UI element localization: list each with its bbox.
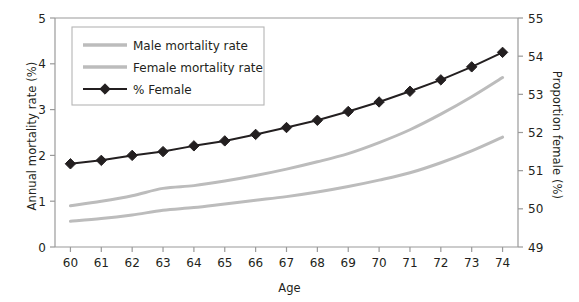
y-axis-right-tick-label: 55 [528, 12, 543, 26]
y-axis-left-tick-label: 2 [38, 149, 46, 163]
x-axis-tick-label: 61 [94, 256, 109, 270]
x-axis-tick-label: 73 [464, 256, 479, 270]
x-axis-tick-label: 72 [433, 256, 448, 270]
x-axis-tick-label: 70 [371, 256, 386, 270]
y-axis-right-title: Proportion female (%) [550, 40, 564, 230]
y-axis-right-tick-label: 50 [528, 202, 543, 216]
legend-label: % Female [133, 83, 192, 97]
x-axis-tick-label: 74 [495, 256, 510, 270]
chart-plot: 0123454950515253545560616263646566676869… [0, 0, 579, 302]
series-marker [497, 47, 507, 57]
series-line [70, 137, 502, 221]
series-marker [405, 86, 415, 96]
x-axis-tick-label: 66 [248, 256, 263, 270]
y-axis-left-tick-label: 5 [38, 12, 46, 26]
y-axis-right-tick-label: 49 [528, 241, 543, 255]
y-axis-left-tick-label: 3 [38, 103, 46, 117]
x-axis-tick-label: 68 [310, 256, 325, 270]
y-axis-left-tick-label: 1 [38, 195, 46, 209]
series-marker [65, 159, 75, 169]
figure-container: 0123454950515253545560616263646566676869… [0, 0, 579, 302]
series-marker [436, 75, 446, 85]
y-axis-right-tick-label: 52 [528, 126, 543, 140]
x-axis-tick-label: 69 [341, 256, 356, 270]
y-axis-right-tick-label: 53 [528, 88, 543, 102]
series-marker [467, 62, 477, 72]
series-marker [158, 146, 168, 156]
x-axis-tick-label: 60 [63, 256, 78, 270]
y-axis-right-tick-label: 54 [528, 50, 543, 64]
y-axis-left-title: Annual mortality rate (%) [25, 41, 39, 231]
series-marker [189, 141, 199, 151]
x-axis-tick-label: 63 [155, 256, 170, 270]
y-axis-left-tick-label: 0 [38, 241, 46, 255]
x-axis-tick-label: 67 [279, 256, 294, 270]
series-marker [96, 155, 106, 165]
x-axis-tick-label: 71 [402, 256, 417, 270]
series-marker [281, 122, 291, 132]
legend-label: Male mortality rate [133, 39, 248, 53]
legend-label: Female mortality rate [133, 61, 263, 75]
series-marker [312, 115, 322, 125]
y-axis-left-tick-label: 4 [38, 57, 46, 71]
series-marker [343, 106, 353, 116]
series-marker [250, 129, 260, 139]
series-marker [374, 97, 384, 107]
x-axis-tick-label: 64 [186, 256, 201, 270]
series-marker [220, 136, 230, 146]
figure-caption [0, 292, 579, 302]
y-axis-right-tick-label: 51 [528, 164, 543, 178]
x-axis-tick-label: 65 [217, 256, 232, 270]
series-marker [127, 150, 137, 160]
x-axis-tick-label: 62 [125, 256, 140, 270]
